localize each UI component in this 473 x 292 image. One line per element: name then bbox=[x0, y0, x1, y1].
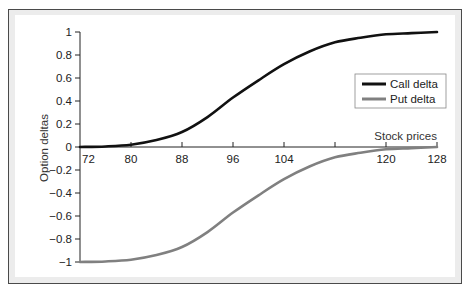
y-tick-label: −0.8 bbox=[49, 233, 72, 245]
x-tick-label: 120 bbox=[376, 153, 395, 165]
legend: Call delta Put delta bbox=[355, 74, 446, 108]
y-tick-label: −0.4 bbox=[49, 187, 72, 199]
y-tick-label: 0 bbox=[66, 141, 72, 153]
x-tick-label: 128 bbox=[427, 153, 446, 165]
y-tick-label: 0.8 bbox=[56, 49, 72, 61]
x-tick-label: 88 bbox=[176, 153, 189, 165]
x-tick-label: 80 bbox=[125, 153, 138, 165]
line-chart: 10.80.60.40.20−0.2−0.4−0.6−0.8−1 7280889… bbox=[0, 0, 473, 292]
x-axis-title: Stock prices bbox=[374, 130, 437, 142]
y-tick-label: −1 bbox=[59, 256, 72, 268]
y-tick-label: −0.6 bbox=[49, 210, 72, 222]
y-axis: 10.80.60.40.20−0.2−0.4−0.6−0.8−1 bbox=[49, 26, 80, 268]
y-tick-label: 0.4 bbox=[56, 95, 73, 107]
y-tick-label: 0.6 bbox=[56, 72, 72, 84]
x-tick-label: 72 bbox=[82, 153, 95, 165]
y-tick-label: 1 bbox=[66, 26, 72, 38]
y-tick-label: −0.2 bbox=[49, 164, 72, 176]
x-tick-label: 96 bbox=[227, 153, 240, 165]
y-axis-title: Option deltas bbox=[38, 114, 50, 182]
y-tick-label: 0.2 bbox=[56, 118, 72, 130]
legend-label-call: Call delta bbox=[390, 78, 439, 90]
legend-label-put: Put delta bbox=[390, 93, 436, 105]
x-tick-label: 104 bbox=[274, 153, 294, 165]
